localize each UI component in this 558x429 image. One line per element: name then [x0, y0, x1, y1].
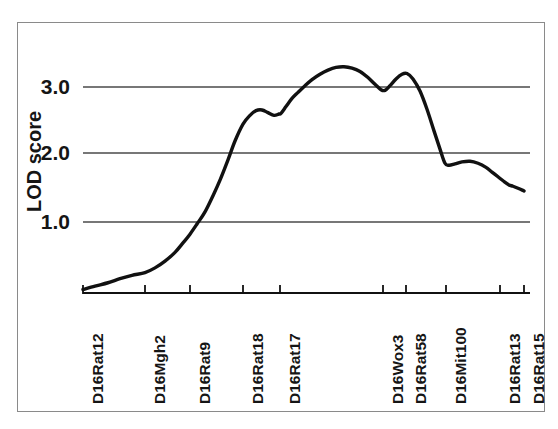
x-tick-label-1: D16Mgh2 [151, 335, 169, 404]
x-tick-label-9: D16Rat15 [530, 333, 548, 404]
gridlines-group [83, 87, 530, 222]
y-tick-label-2: 2.0 [22, 141, 70, 165]
x-axis-group [83, 285, 530, 294]
figure-container: LOD score 3.0 2.0 1.0 D16Rat12D16Mgh2D16… [0, 0, 558, 429]
y-tick-label-1: 1.0 [22, 210, 70, 234]
x-tick-label-5: D16Wox3 [389, 335, 407, 405]
y-tick-label-3: 3.0 [22, 75, 70, 99]
x-tick-label-3: D16Rat18 [249, 333, 267, 404]
lod-score-curve [83, 67, 524, 290]
x-tick-label-0: D16Rat12 [89, 333, 107, 404]
x-tick-label-4: D16Rat17 [286, 333, 304, 404]
x-tick-label-6: D16Rat58 [412, 333, 430, 404]
x-tick-label-8: D16Rat13 [506, 333, 524, 404]
x-tick-label-2: D16Rat9 [196, 342, 214, 404]
lod-score-chart [0, 0, 558, 429]
scan-artifact-text [300, 417, 550, 429]
x-tick-label-7: D16Mit100 [452, 327, 470, 404]
